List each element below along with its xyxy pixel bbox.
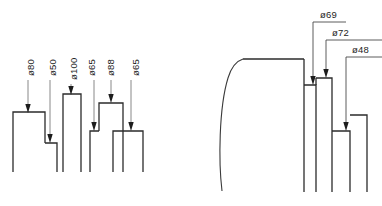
dimension-d-48: ø48 [343,44,382,131]
dimension-d-69: ø69 [310,9,346,85]
profile-step-1 [13,112,45,172]
profile-step-d [350,115,367,192]
arrow-head-d-69 [310,76,315,85]
dimension-label-d-48: ø48 [352,44,369,55]
arrow-head-d-88 [108,94,113,103]
leader-line-d-48 [346,57,382,124]
profile-step-a-shoulder [304,85,316,192]
dimension-d-65b: ø65 [128,59,140,131]
arrow-head-d-65b [128,122,133,131]
drawing-svg: ø80 ø50 ø100 ø65 ø88 [0,0,382,206]
dimension-label-d-80: ø80 [25,59,36,76]
arrow-head-d-72 [323,69,328,78]
arrow-head-d-65a [91,122,96,131]
arrow-head-d-50 [47,134,52,143]
profile-step-4 [90,131,99,172]
profile-step-6 [113,131,143,172]
dimension-d-80: ø80 [25,59,36,113]
curved-left-edge [220,59,243,191]
profile-step-3 [63,94,81,172]
dimension-d-100: ø100 [68,58,79,95]
profile-step-b [316,78,332,192]
dimension-label-d-50: ø50 [47,59,58,76]
profile-step-c [332,131,350,192]
profile-step-5 [99,103,123,172]
dimension-label-d-65b: ø65 [130,59,141,76]
dimension-d-50: ø50 [47,59,58,143]
dimension-label-d-69: ø69 [320,9,337,20]
technical-drawing-canvas: ø80 ø50 ø100 ø65 ø88 [0,0,382,206]
profile-step-2 [45,143,57,172]
dimension-label-d-88: ø88 [105,59,116,76]
dimension-label-d-65a: ø65 [86,59,97,76]
dimension-d-88: ø88 [105,59,116,103]
dimension-label-d-100: ø100 [68,58,79,80]
dimension-d-65a: ø65 [86,59,97,131]
left-stepped-profile: ø80 ø50 ø100 ø65 ø88 [13,58,143,172]
arrow-head-d-48 [343,122,348,131]
dimension-label-d-72: ø72 [332,27,349,38]
right-stepped-profile: ø69 ø72 ø48 [220,9,382,192]
